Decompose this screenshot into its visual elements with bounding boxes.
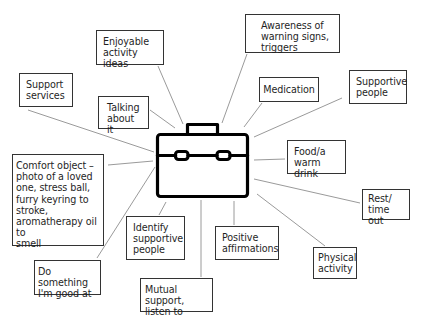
connector-identify [159, 202, 166, 215]
node-positive-affirmations: Positive affirmations [215, 226, 279, 260]
briefcase-icon [158, 125, 248, 197]
node-medication: Medication [259, 77, 319, 102]
node-rest-time-out: Rest/ time out [362, 189, 410, 220]
connector-supportive-people [254, 98, 342, 137]
connector-comfort [108, 161, 153, 165]
node-supportive-people: Supportive people [349, 70, 407, 104]
node-support-services: Support services [19, 73, 73, 107]
node-comfort-object: Comfort object – photo of a loved one, s… [12, 154, 104, 246]
node-mutual-support: Mutual support, listen to others [140, 278, 213, 312]
connector-awareness [222, 54, 247, 123]
node-physical-activity: Physical activity [313, 247, 357, 279]
node-food-warm-drink: Food/a warm drink [287, 140, 346, 174]
node-enjoyable-activity-ideas: Enjoyable activity ideas [96, 30, 164, 65]
connector-medication [244, 103, 262, 127]
node-identify-supportive-people: Identify supportive people [126, 216, 185, 260]
connector-food [254, 159, 285, 160]
node-talking-about-it: Talking about it [98, 96, 149, 129]
connector-rest [254, 179, 360, 203]
connector-talking [150, 110, 175, 128]
toolkit-mind-map: Enjoyable activity ideas Awareness of wa… [0, 0, 421, 319]
connector-enjoyable [158, 66, 183, 124]
node-do-something-good-at: Do something I'm good at [34, 260, 101, 295]
node-awareness-of-warning-signs: Awareness of warning signs, triggers [245, 14, 340, 53]
